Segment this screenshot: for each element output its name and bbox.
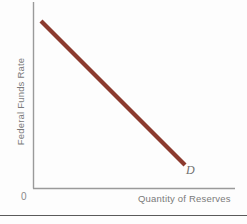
demand-curve-label: D <box>186 163 195 178</box>
plot-area <box>0 0 247 224</box>
bottom-divider <box>0 215 247 216</box>
origin-tick-label: 0 <box>21 191 27 202</box>
x-axis-label: Quantity of Reserves <box>138 193 231 204</box>
demand-curve <box>41 21 185 165</box>
figure-container: Federal Funds Rate Quantity of Reserves … <box>0 0 247 224</box>
y-axis-label: Federal Funds Rate <box>15 42 26 162</box>
